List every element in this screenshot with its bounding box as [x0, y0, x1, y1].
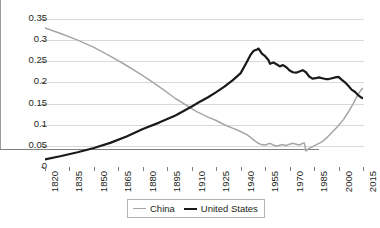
series-line-china: [45, 28, 363, 151]
x-axis-tick-label: 1880: [147, 171, 158, 192]
legend-line-icon-china: [133, 208, 146, 209]
series-line-united-states: [45, 49, 363, 160]
x-axis-tick: [167, 167, 168, 171]
plot-area: [45, 19, 363, 167]
x-axis-tick-label: 1865: [122, 171, 133, 192]
x-axis-tick: [363, 167, 364, 171]
legend-item-united-states: United States: [184, 203, 258, 214]
x-axis-tick: [192, 167, 193, 171]
x-axis-tick: [143, 167, 144, 171]
legend: China United States: [127, 199, 265, 218]
x-axis-tick: [265, 167, 266, 171]
x-axis-tick: [118, 167, 119, 171]
chart-container: 0.350.30.250.20.150.10.050 1820183518501…: [0, 0, 380, 228]
x-axis-tick-label: 1895: [171, 171, 182, 192]
x-axis-tick: [241, 167, 242, 171]
x-axis-tick: [314, 167, 315, 171]
legend-label-united-states: United States: [201, 203, 258, 214]
x-axis-tick-label: 2000: [343, 171, 354, 192]
x-axis-tick-label: 1910: [196, 171, 207, 192]
x-axis-tick-label: 1850: [98, 171, 109, 192]
x-axis-tick-label: 1985: [318, 171, 329, 192]
y-axis-line: [0, 0, 1, 149]
x-axis-tick-label: 1820: [49, 171, 60, 192]
x-axis-tick-label: 1940: [245, 171, 256, 192]
legend-label-china: China: [150, 203, 175, 214]
legend-item-china: China: [133, 203, 175, 214]
x-axis-tick: [339, 167, 340, 171]
x-axis-tick: [94, 167, 95, 171]
x-axis-tick: [290, 167, 291, 171]
x-axis-tick-label: 1925: [220, 171, 231, 192]
x-axis-tick-label: 1970: [294, 171, 305, 192]
x-axis-tick: [216, 167, 217, 171]
x-axis-tick-label: 2015: [367, 171, 378, 192]
x-axis-tick: [45, 167, 46, 171]
x-axis-tick-label: 1955: [269, 171, 280, 192]
x-axis-tick: [69, 167, 70, 171]
x-axis-tick-label: 1835: [73, 171, 84, 192]
series-paths: [45, 19, 363, 167]
legend-line-icon-united-states: [184, 208, 197, 210]
